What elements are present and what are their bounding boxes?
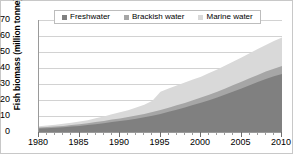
x-axis-minor-tick	[70, 132, 71, 135]
x-axis-minor-tick	[135, 132, 136, 135]
x-axis-minor-tick	[87, 132, 88, 135]
x-axis-minor-tick	[216, 132, 217, 135]
x-axis-minor-tick	[257, 132, 258, 135]
y-axis-tick-label: 60	[0, 31, 10, 40]
x-axis-minor-tick	[127, 132, 128, 135]
x-axis-tick-label: 1995	[140, 137, 180, 147]
x-axis-tick-label: 1985	[59, 137, 99, 147]
x-axis-minor-tick	[62, 132, 63, 135]
x-axis-minor-tick	[176, 132, 177, 135]
y-axis-tick-label: 10	[0, 111, 10, 120]
y-axis-tick-label: 20	[0, 95, 10, 104]
y-axis-tick-label: 0	[0, 127, 10, 136]
legend: FreshwaterBrackish waterMarine water	[54, 10, 261, 24]
fish-biomass-area-chart: Fish biomass (million tonne) 01020304050…	[0, 0, 293, 154]
legend-swatch-icon	[62, 15, 67, 20]
legend-label: Freshwater	[70, 13, 110, 21]
x-axis-tick-label: 1980	[18, 137, 58, 147]
legend-swatch-icon	[124, 15, 129, 20]
x-axis-minor-tick	[168, 132, 169, 135]
y-axis-tick-label: 50	[0, 47, 10, 56]
legend-item[interactable]: Brackish water	[124, 13, 184, 21]
y-axis-tick-label: 40	[0, 63, 10, 72]
legend-label: Brackish water	[132, 13, 184, 21]
y-axis-tick-label: 30	[0, 79, 10, 88]
y-axis-tick-label: 70	[0, 15, 10, 24]
x-axis-minor-tick	[46, 132, 47, 135]
x-axis-minor-tick	[143, 132, 144, 135]
x-axis-minor-tick	[184, 132, 185, 135]
x-axis-minor-tick	[273, 132, 274, 135]
x-axis-tick-label: 2010	[261, 137, 293, 147]
plot-area	[38, 20, 282, 133]
x-axis-minor-tick	[54, 132, 55, 135]
x-axis-minor-tick	[232, 132, 233, 135]
x-axis-minor-tick	[224, 132, 225, 135]
x-axis-minor-tick	[103, 132, 104, 135]
x-axis-minor-tick	[265, 132, 266, 135]
x-axis-minor-tick	[208, 132, 209, 135]
x-axis-minor-tick	[249, 132, 250, 135]
x-axis-tick-label: 2005	[221, 137, 261, 147]
legend-swatch-icon	[198, 15, 203, 20]
stacked-area-series	[39, 20, 282, 132]
legend-label: Marine water	[206, 13, 252, 21]
x-axis-tick-label: 2000	[180, 137, 220, 147]
y-axis-title: Fish biomass (million tonne)	[12, 0, 22, 114]
x-axis-minor-tick	[151, 132, 152, 135]
x-axis-tick-label: 1990	[99, 137, 139, 147]
legend-item[interactable]: Marine water	[198, 13, 252, 21]
x-axis-minor-tick	[192, 132, 193, 135]
x-axis-minor-tick	[95, 132, 96, 135]
legend-item[interactable]: Freshwater	[62, 13, 110, 21]
x-axis-minor-tick	[111, 132, 112, 135]
